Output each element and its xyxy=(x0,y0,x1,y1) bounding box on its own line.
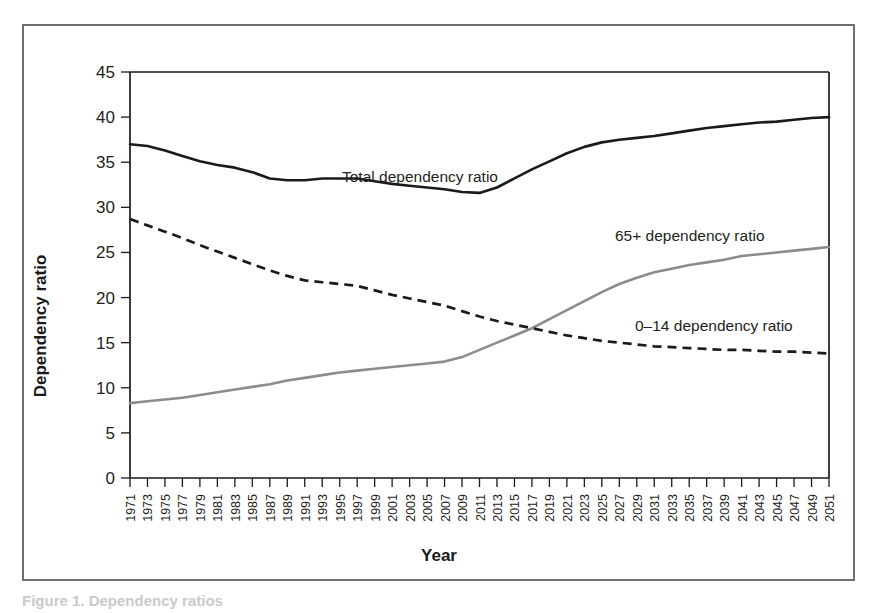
x-axis-title: Year xyxy=(421,546,457,565)
x-tick-label: 2019 xyxy=(543,494,557,522)
x-tick-label: 2017 xyxy=(526,494,540,522)
x-tick-label: 2015 xyxy=(508,494,522,522)
x-tick-label: 2051 xyxy=(823,494,837,522)
y-tick-label: 40 xyxy=(96,108,115,127)
x-tick-label: 1979 xyxy=(194,494,208,522)
x-tick-label: 1995 xyxy=(334,494,348,522)
x-tick-label: 2029 xyxy=(631,494,645,522)
x-tick-label: 2031 xyxy=(648,494,662,522)
x-tick-label: 1991 xyxy=(299,494,313,522)
x-tick-label: 1985 xyxy=(246,494,260,522)
x-tick-label: 1993 xyxy=(316,494,330,522)
chart-frame: 051015202530354045 197119731975197719791… xyxy=(22,24,855,581)
x-tick-label: 2023 xyxy=(578,494,592,522)
y-tick-label: 30 xyxy=(96,198,115,217)
x-tick-label: 1997 xyxy=(351,494,365,522)
y-tick-label: 5 xyxy=(106,424,115,443)
figure-caption-clipped: Figure 1. Dependency ratios xyxy=(22,592,452,610)
y-axis-title: Dependency ratio xyxy=(31,255,50,398)
x-tick-label: 1977 xyxy=(176,494,190,522)
x-tick-label: 1975 xyxy=(159,494,173,522)
y-tick-label: 25 xyxy=(96,243,115,262)
dependency-ratio-line-chart: 051015202530354045 197119731975197719791… xyxy=(24,26,853,579)
figure-caption-text: Figure 1. Dependency ratios xyxy=(22,592,452,610)
x-tick-label: 2001 xyxy=(386,494,400,522)
x-tick-label: 1973 xyxy=(141,494,155,522)
series-label-0-14: 0–14 dependency ratio xyxy=(635,317,793,334)
x-tick-label: 2041 xyxy=(736,494,750,522)
x-tick-label: 2021 xyxy=(561,494,575,522)
x-axis: 1971197319751977197919811983198519871989… xyxy=(124,478,837,522)
x-tick-label: 2039 xyxy=(718,494,732,522)
x-tick-label: 2037 xyxy=(701,494,715,522)
x-tick-label: 2027 xyxy=(613,494,627,522)
y-tick-label: 0 xyxy=(106,469,115,488)
y-tick-label: 15 xyxy=(96,334,115,353)
x-tick-label: 1989 xyxy=(281,494,295,522)
x-tick-label: 2033 xyxy=(666,494,680,522)
x-tick-label: 2045 xyxy=(771,494,785,522)
y-tick-label: 10 xyxy=(96,379,115,398)
series-lines xyxy=(130,117,829,403)
x-tick-label: 2011 xyxy=(474,494,488,521)
x-tick-label: 2003 xyxy=(404,494,418,522)
figure-container: 051015202530354045 197119731975197719791… xyxy=(0,0,873,613)
x-tick-label: 1987 xyxy=(264,494,278,522)
y-tick-label: 20 xyxy=(96,289,115,308)
x-tick-label: 2035 xyxy=(683,494,697,522)
x-tick-label: 2043 xyxy=(753,494,767,522)
x-tick-label: 1981 xyxy=(211,494,225,522)
x-tick-label: 2013 xyxy=(491,494,505,522)
x-tick-label: 2007 xyxy=(439,494,453,522)
x-tick-label: 1971 xyxy=(124,494,138,522)
x-tick-label: 2025 xyxy=(596,494,610,522)
x-tick-label: 2009 xyxy=(456,494,470,522)
series-label-total: Total dependency ratio xyxy=(342,168,498,185)
x-tick-label: 1999 xyxy=(369,494,383,522)
x-tick-label: 1983 xyxy=(229,494,243,522)
y-tick-label: 35 xyxy=(96,153,115,172)
series-label-65-plus: 65+ dependency ratio xyxy=(615,227,765,244)
x-tick-label: 2005 xyxy=(421,494,435,522)
x-tick-label: 2047 xyxy=(788,494,802,522)
y-tick-label: 45 xyxy=(96,63,115,82)
x-tick-label: 2049 xyxy=(806,494,820,522)
